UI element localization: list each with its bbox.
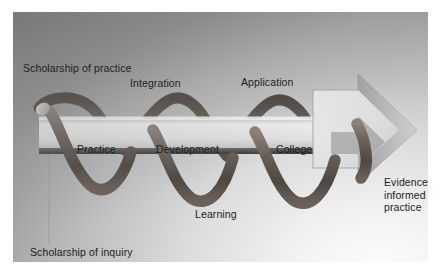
label-evidence-informed-practice: Evidence informed practice xyxy=(384,176,428,214)
diagram-artwork xyxy=(13,12,428,262)
arrow-stage-college: College xyxy=(276,143,312,156)
arrow-stage-development: Development xyxy=(156,143,219,156)
label-integration: Integration xyxy=(130,77,181,90)
label-learning: Learning xyxy=(195,208,237,221)
label-scholarship-of-inquiry: Scholarship of inquiry xyxy=(30,246,133,259)
arrow-stage-practice: Practice xyxy=(77,143,116,156)
arrow-shaft-highlight xyxy=(39,117,349,121)
label-application: Application xyxy=(241,76,293,89)
label-scholarship-of-practice: Scholarship of practice xyxy=(23,62,132,75)
diagram-figure: Scholarship of practice Integration Appl… xyxy=(0,0,445,272)
diagram-panel: Scholarship of practice Integration Appl… xyxy=(13,12,428,262)
